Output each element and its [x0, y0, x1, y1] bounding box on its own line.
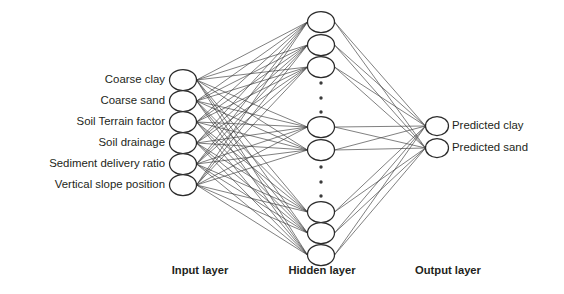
edge-hidden-1-output-0: [335, 45, 426, 126]
output-layer-labels: Predicted clayPredicted sand: [452, 119, 528, 153]
ellipsis-lower-dot-1: [319, 180, 322, 183]
edge-hidden-0-output-0: [335, 22, 426, 126]
edge-input-1-hidden-0: [197, 22, 308, 101]
input-label-3: Soil drainage: [99, 136, 166, 148]
input-label-4: Sediment delivery ratio: [49, 157, 165, 169]
output-layer-nodes: [426, 117, 449, 158]
ellipsis-lower-dot-0: [319, 165, 322, 168]
edge-hidden-7-output-1: [335, 148, 426, 255]
hidden-layer-nodes: [308, 12, 335, 266]
ellipsis-upper-dot-0: [319, 81, 322, 84]
ellipsis-lower-dot-2: [319, 194, 322, 197]
hidden-node-4: [308, 140, 335, 161]
hidden-node-1: [308, 35, 335, 56]
output-node-0: [426, 117, 449, 136]
input-label-0: Coarse clay: [105, 73, 165, 85]
edge-input-4-hidden-4: [197, 150, 308, 164]
input-node-4: [170, 154, 197, 175]
neural-network-diagram: Coarse clayCoarse sandSoil Terrain facto…: [0, 0, 564, 294]
input-node-1: [170, 91, 197, 112]
output-layer-caption: Output layer: [415, 264, 482, 276]
output-label-1: Predicted sand: [452, 141, 528, 153]
edge-input-2-hidden-1: [197, 45, 308, 122]
input-node-3: [170, 133, 197, 154]
edge-input-3-hidden-1: [197, 45, 308, 143]
hidden-node-5: [308, 202, 335, 223]
edge-input-5-hidden-1: [197, 45, 308, 185]
input-node-2: [170, 112, 197, 133]
input-layer-labels: Coarse clayCoarse sandSoil Terrain facto…: [49, 73, 165, 190]
hidden-node-3: [308, 117, 335, 138]
edge-hidden-2-output-1: [335, 67, 426, 148]
input-node-0: [170, 70, 197, 91]
edge-input-0-hidden-0: [197, 22, 308, 80]
input-label-5: Vertical slope position: [55, 178, 165, 190]
edge-input-4-hidden-5: [197, 164, 308, 212]
hidden-node-6: [308, 223, 335, 244]
edge-input-2-hidden-7: [197, 122, 308, 255]
edge-hidden-4-output-0: [335, 126, 426, 150]
hidden-node-0: [308, 12, 335, 33]
output-node-1: [426, 139, 449, 158]
input-label-1: Coarse sand: [100, 94, 165, 106]
edge-hidden-6-output-0: [335, 126, 426, 233]
output-label-0: Predicted clay: [452, 119, 524, 131]
edge-input-3-hidden-0: [197, 22, 308, 143]
edge-hidden-4-output-1: [335, 148, 426, 150]
edges-input-to-hidden: [197, 22, 308, 255]
ellipsis-upper-dot-1: [319, 96, 322, 99]
edge-input-3-hidden-3: [197, 127, 308, 143]
edges-hidden-to-output: [335, 22, 426, 255]
ellipsis-upper-dot-2: [319, 110, 322, 113]
edge-hidden-3-output-0: [335, 126, 426, 127]
input-node-5: [170, 175, 197, 196]
layer-captions: Input layer Hidden layer Output layer: [172, 264, 482, 276]
hidden-node-7: [308, 245, 335, 266]
edge-hidden-5-output-0: [335, 126, 426, 212]
edge-hidden-7-output-0: [335, 126, 426, 255]
network-canvas: Coarse clayCoarse sandSoil Terrain facto…: [0, 0, 564, 294]
edge-input-3-hidden-7: [197, 143, 308, 255]
input-label-2: Soil Terrain factor: [77, 115, 166, 127]
hidden-layer-caption: Hidden layer: [288, 264, 356, 276]
hidden-node-2: [308, 57, 335, 78]
edge-hidden-2-output-0: [335, 67, 426, 126]
input-layer-caption: Input layer: [172, 264, 229, 276]
edge-hidden-0-output-1: [335, 22, 426, 148]
input-layer-nodes: [170, 70, 197, 196]
